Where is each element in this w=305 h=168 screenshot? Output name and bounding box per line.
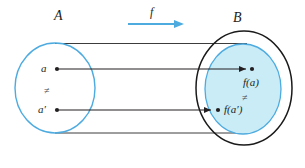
image-fa-label: f(a) [243,77,259,88]
image-fa-prime-label: f(a′) [224,104,242,115]
function-label: f [150,6,153,18]
map-arrow-a-prime [55,107,220,113]
set-b-label: B [233,11,242,25]
point-a-prime-dot [55,108,59,112]
point-fa-dot [250,67,254,71]
diagram-canvas [0,0,305,168]
point-fa-prime-dot [216,108,220,112]
element-a-label: a [41,63,47,74]
point-a-dot [55,67,59,71]
set-a-ellipse [15,43,95,133]
element-a-prime-label: a′ [38,104,46,115]
injective-function-diagram: A B f a ≠ a′ f(a) ≠ f(a′) [0,0,305,168]
not-equal-domain-label: ≠ [44,86,50,96]
not-equal-codomain-label: ≠ [242,93,248,103]
function-arrow [128,20,184,28]
image-of-a-ellipse [205,44,281,134]
set-a-label: A [54,9,63,23]
